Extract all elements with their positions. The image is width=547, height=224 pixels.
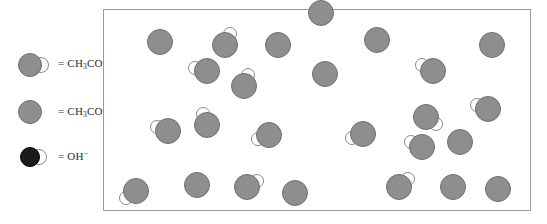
particle-core <box>447 129 473 155</box>
particle-core <box>420 58 446 84</box>
particle-core <box>282 180 308 206</box>
particle-core <box>212 32 238 58</box>
particle-core <box>155 118 181 144</box>
particle-panel <box>103 9 531 211</box>
particle-core <box>350 121 376 147</box>
particle-core <box>194 58 220 84</box>
particle-core <box>479 32 505 58</box>
legend-item-hydroxide-ion: = OH− <box>0 140 103 174</box>
particle-core <box>184 172 210 198</box>
particle-core <box>485 176 511 202</box>
particle-core <box>364 27 390 53</box>
particle-core <box>18 53 42 77</box>
legend-swatch-acetic-acid <box>12 48 58 82</box>
legend-label-hydroxide-ion: = OH− <box>58 149 88 162</box>
particle-core <box>18 100 42 124</box>
particle-core <box>20 147 40 167</box>
particle-core <box>234 174 260 200</box>
particle-core <box>256 122 282 148</box>
particle-core <box>265 32 291 58</box>
particle-core <box>475 96 501 122</box>
legend-item-acetate-ion: = CH3CO2− <box>0 95 103 129</box>
particle-core <box>440 174 466 200</box>
legend-item-acetic-acid: = CH3CO2H <box>0 48 103 82</box>
particle-core <box>308 0 334 26</box>
particle-core <box>123 178 149 204</box>
legend-swatch-hydroxide-ion <box>12 140 58 174</box>
particle-core <box>194 112 220 138</box>
particle-core <box>231 73 257 99</box>
diagram-canvas: = CH3CO2H = CH3CO2− = OH− <box>0 0 547 224</box>
particle-core <box>409 134 435 160</box>
particle-core <box>413 104 439 130</box>
particle-core <box>386 174 412 200</box>
particle-core <box>147 29 173 55</box>
particle-core <box>312 61 338 87</box>
legend: = CH3CO2H = CH3CO2− = OH− <box>0 0 103 224</box>
legend-swatch-acetate-ion <box>12 95 58 129</box>
